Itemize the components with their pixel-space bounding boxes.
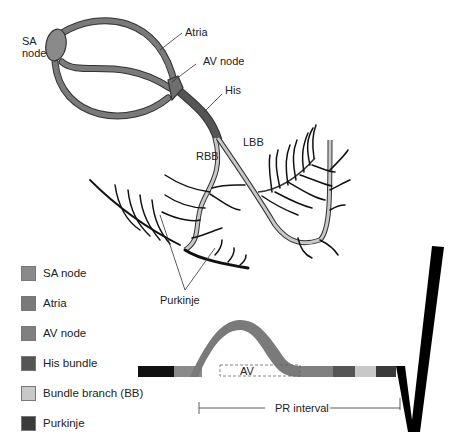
swatch-his-bundle bbox=[21, 356, 36, 371]
legend-item-atria: Atria bbox=[21, 295, 67, 311]
swatch-purkinje bbox=[21, 416, 36, 431]
atrial-pathways bbox=[55, 21, 175, 116]
conduction-diagram: SA node Atria AV node His RBB LBB Purkin… bbox=[0, 0, 452, 444]
legend-label: His bundle bbox=[43, 357, 97, 369]
label-purkinje: Purkinje bbox=[160, 294, 200, 306]
legend-label: Bundle branch (BB) bbox=[43, 387, 143, 399]
swatch-atria bbox=[21, 296, 36, 311]
label-his: His bbox=[225, 84, 241, 96]
legend-label: SA node bbox=[43, 267, 86, 279]
label-rbb: RBB bbox=[196, 150, 219, 162]
purkinje-fibers bbox=[90, 125, 350, 268]
pr-interval-label: PR interval bbox=[275, 402, 329, 414]
label-sa-node-2: node bbox=[22, 47, 46, 59]
ecg-av-label: AV bbox=[240, 365, 255, 377]
legend-label: AV node bbox=[43, 327, 86, 339]
swatch-sa-node bbox=[21, 266, 36, 281]
legend-item-sa-node: SA node bbox=[21, 265, 86, 281]
legend-label: Purkinje bbox=[43, 417, 85, 429]
legend-item-bundle-branch: Bundle branch (BB) bbox=[21, 385, 143, 401]
swatch-av-node bbox=[21, 326, 36, 341]
label-lbb: LBB bbox=[243, 136, 264, 148]
label-av-node: AV node bbox=[203, 55, 244, 67]
label-atria: Atria bbox=[185, 26, 209, 38]
legend-label: Atria bbox=[43, 297, 67, 309]
legend-item-purkinje: Purkinje bbox=[21, 415, 85, 431]
legend-item-av-node: AV node bbox=[21, 325, 86, 341]
legend-item-his-bundle: His bundle bbox=[21, 355, 97, 371]
ecg-strip: AV PR interval bbox=[138, 246, 444, 432]
label-sa-node: SA bbox=[22, 35, 37, 47]
swatch-bundle-branch bbox=[21, 386, 36, 401]
